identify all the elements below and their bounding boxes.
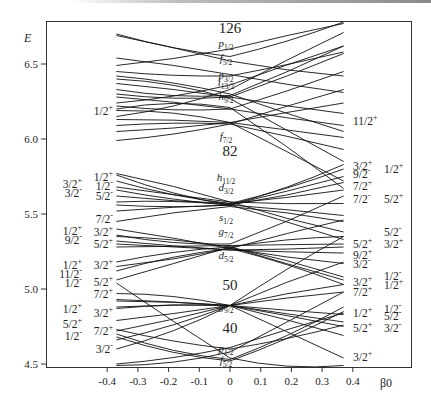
omega-parity-label: 1/2- bbox=[65, 328, 83, 342]
magic-number: 126 bbox=[219, 20, 242, 36]
omega-parity-label: 3/2+ bbox=[384, 236, 404, 250]
y-tick-label: 5.5 bbox=[24, 208, 38, 220]
magic-number: 82 bbox=[223, 143, 238, 159]
x-axis: -0.4-0.3-0.2-0.100.10.20.30.4 bbox=[98, 367, 360, 387]
omega-parity-label: 3/2+ bbox=[94, 305, 114, 319]
x-tick-label: -0.1 bbox=[191, 375, 208, 387]
omega-parity-label: 5/2+ bbox=[384, 191, 404, 205]
omega-parity-label: 3/2- bbox=[384, 320, 402, 334]
omega-parity-label: 1/2- bbox=[65, 275, 83, 289]
omega-parity-label: 1/2+ bbox=[94, 103, 114, 117]
orbital-label: h9/2 bbox=[218, 90, 233, 105]
magic-number: 50 bbox=[223, 277, 238, 293]
x-tick-label: 0.4 bbox=[346, 375, 360, 387]
omega-parity-label: 7/2+ bbox=[353, 178, 373, 192]
magic-number: 40 bbox=[223, 320, 238, 336]
omega-parity-label: 1/2+ bbox=[384, 161, 404, 175]
y-axis-label: E bbox=[23, 31, 32, 45]
orbital-label: g9/2 bbox=[218, 300, 233, 315]
x-tick-label: 0.2 bbox=[285, 375, 299, 387]
omega-parity-label: 7/2+ bbox=[94, 323, 114, 337]
x-axis-label: β0 bbox=[380, 376, 392, 390]
x-tick-label: 0.1 bbox=[254, 375, 268, 387]
omega-parity-label: 5/2- bbox=[96, 188, 114, 202]
right-omega-labels: 11/2+3/2+9/2-7/2+7/2-5/2+9/2+3/2-3/2+7/2… bbox=[353, 113, 404, 363]
left-omega-labels: 1/2+1/2+1/2-5/2-7/2-3/2+5/2+3/2+5/2+7/2+… bbox=[59, 103, 113, 356]
y-tick-label: 6.0 bbox=[24, 133, 38, 145]
nilsson-chart: 4.55.05.56.06.5 -0.4-0.3-0.2-0.100.10.20… bbox=[0, 0, 431, 409]
omega-parity-label: 1/2+ bbox=[384, 277, 404, 291]
omega-parity-label: 7/2+ bbox=[94, 286, 114, 300]
omega-parity-label: 1/2+ bbox=[63, 301, 83, 315]
omega-parity-label: 5/2+ bbox=[353, 320, 373, 334]
x-tick-label: -0.4 bbox=[98, 375, 116, 387]
y-tick-label: 6.5 bbox=[24, 58, 38, 70]
y-tick-label: 5.0 bbox=[24, 283, 38, 295]
x-tick-label: 0 bbox=[227, 375, 233, 387]
omega-parity-label: 5/2+ bbox=[94, 236, 114, 250]
omega-parity-label: 7/2- bbox=[353, 191, 371, 205]
orbital-label: p1/2 bbox=[217, 37, 233, 52]
omega-parity-label: 3/2- bbox=[353, 256, 371, 270]
omega-parity-label: 3/2- bbox=[65, 185, 83, 199]
y-tick-label: 4.5 bbox=[24, 358, 38, 370]
omega-parity-label: 3/2+ bbox=[94, 257, 114, 271]
x-tick-label: -0.2 bbox=[160, 375, 177, 387]
level-line bbox=[116, 36, 343, 77]
omega-parity-label: 7/2- bbox=[96, 211, 114, 225]
omega-parity-label: 1/2+ bbox=[353, 305, 373, 319]
omega-parity-label: 7/2+ bbox=[353, 284, 373, 298]
x-tick-label: -0.3 bbox=[129, 375, 147, 387]
y-axis: 4.55.05.56.06.5 bbox=[24, 58, 47, 370]
orbital-label: d5/2 bbox=[218, 249, 233, 264]
omega-parity-label: 11/2+ bbox=[353, 113, 378, 127]
orbital-label: g7/2 bbox=[218, 225, 233, 240]
orbital-label: f5/2 bbox=[220, 52, 233, 67]
x-tick-label: 0.3 bbox=[315, 375, 329, 387]
omega-parity-label: 9/2- bbox=[65, 232, 83, 246]
omega-parity-label: 3/2- bbox=[96, 341, 114, 355]
omega-parity-label: 3/2+ bbox=[353, 349, 373, 363]
